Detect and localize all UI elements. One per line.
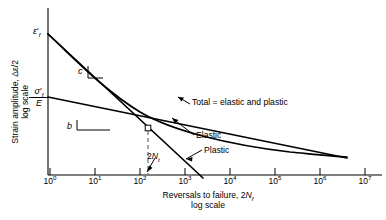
- transition-subscript-t: t: [158, 156, 160, 163]
- plot-canvas: [0, 0, 386, 220]
- x-tick-label-1e5: 105: [269, 177, 282, 187]
- strain-life-fatigue-diagram: ε′f σ′f E c b Total = elastic and plasti…: [0, 0, 386, 220]
- x-caption-log-scale: log scale: [162, 201, 253, 211]
- x-tick-label-1e2: 102: [134, 177, 147, 187]
- plastic-curve-label: Plastic: [204, 146, 229, 156]
- x-tick-label-1e1: 101: [89, 177, 102, 187]
- leader-line-plastic: [186, 150, 202, 162]
- y-caption-text: Strain amplitude, Δε/2: [10, 60, 20, 144]
- epsilon-subscript-f: f: [39, 31, 41, 38]
- x-caption-text: Reversals to failure, 2: [162, 190, 245, 200]
- slope-triangle-b: [77, 120, 110, 130]
- x-tick-label-1e6: 106: [314, 177, 327, 187]
- x-tick-label-1e4: 104: [224, 177, 237, 187]
- leader-line-total: [178, 97, 190, 104]
- x-caption-subscript-f: f: [252, 195, 254, 202]
- fraction-numerator: σ′f: [29, 86, 49, 98]
- slope-triangle-c: [88, 66, 103, 78]
- slope-b-label: b: [67, 121, 72, 131]
- sigma-f-over-modulus-label: σ′f E: [29, 86, 49, 110]
- x-axis-caption: Reversals to failure, 2Nf log scale: [162, 191, 253, 211]
- elastic-curve-label: Elastic: [196, 131, 221, 141]
- x-tick-label-1e3: 103: [179, 177, 192, 187]
- y-axis-caption: Strain amplitude, Δε/2 log scale: [11, 42, 31, 162]
- transition-point-marker: [145, 125, 151, 131]
- x-tick-label-1e0: 100: [44, 177, 57, 187]
- total-curve-label: Total = elastic and plastic: [192, 98, 288, 108]
- fraction-denominator-modulus: E: [29, 98, 49, 109]
- slope-c-label: c: [78, 66, 83, 76]
- transition-life-label: 2Nt: [147, 152, 160, 162]
- x-tick-label-1e7: 107: [359, 177, 372, 187]
- sigma-subscript-f: f: [42, 91, 44, 98]
- y-caption-log-scale: log scale: [21, 42, 31, 162]
- epsilon-f-intercept-label: ε′f: [33, 26, 40, 36]
